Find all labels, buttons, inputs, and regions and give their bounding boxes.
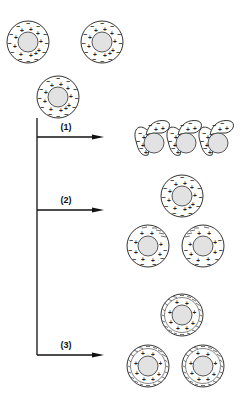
branch-label-3: (3) xyxy=(61,340,72,350)
arrow-1-head xyxy=(92,135,104,140)
branch-label-1: (1) xyxy=(61,122,72,132)
outcome-3-particle-right xyxy=(182,345,224,387)
aggregate-particle-1 xyxy=(135,120,170,156)
branch-arrows: (1) (2) (3) xyxy=(37,118,104,358)
initial-particles xyxy=(7,20,123,120)
outcome-2-particles xyxy=(127,174,224,268)
outcome-2-particle-left xyxy=(127,225,169,268)
outcome-3-particles xyxy=(127,294,224,387)
arrow-3-head xyxy=(92,353,104,358)
aggregate-particle-3 xyxy=(199,120,234,156)
double-layer-diagram: + + + + + + + + + + − − − − − − − − − − … xyxy=(0,0,247,405)
branch-label-2: (2) xyxy=(61,195,72,205)
particle-top-left xyxy=(7,20,49,65)
outcome-3-particle-top xyxy=(161,294,203,336)
outcome-2-particle-top xyxy=(161,174,203,219)
arrow-2-head xyxy=(92,208,104,213)
particle-top-right xyxy=(81,20,123,65)
outcome-3-particle-left xyxy=(127,345,169,387)
outcome-1-aggregate xyxy=(135,120,234,156)
particle-middle xyxy=(37,75,79,120)
outcome-2-particle-right xyxy=(182,225,224,268)
aggregate-particle-2 xyxy=(167,120,202,156)
